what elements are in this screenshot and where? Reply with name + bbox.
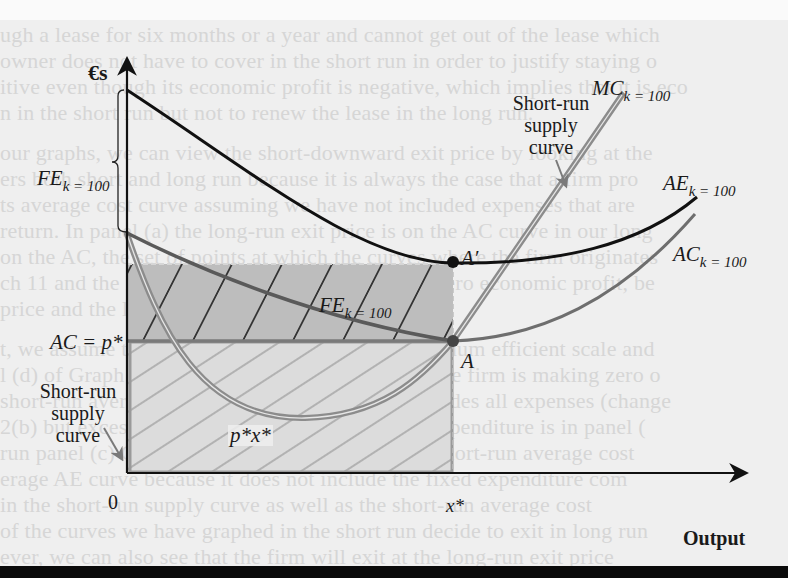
price-label: AC = p* — [50, 332, 123, 353]
ac-curve — [453, 214, 695, 341]
point-a-prime — [447, 256, 459, 268]
x-axis-label: Output — [683, 528, 745, 548]
supply-right-line2: supply — [506, 114, 596, 136]
ae-name: AE — [663, 171, 689, 195]
mc-label: MCk = 100 — [592, 78, 670, 104]
mc-subscript: k = 100 — [624, 88, 671, 104]
supply-right-line3: curve — [506, 136, 596, 158]
ac-subscript: k = 100 — [700, 254, 747, 270]
page-bottom-edge — [0, 566, 788, 578]
fe-brace-sub-text: k = 100 — [63, 178, 110, 194]
point-a-label: A — [461, 351, 474, 372]
ae-label: AEk = 100 — [663, 173, 735, 199]
point-a — [447, 335, 459, 347]
supply-right-line1: Short-run — [506, 92, 596, 114]
supply-left-line3: curve — [33, 424, 123, 446]
revenue-area-label: p*x* — [228, 425, 273, 446]
fe-brace-subscript: k = 100 — [63, 178, 110, 194]
ac-name: AC — [673, 242, 700, 266]
fe-label: FEk = 100 — [319, 295, 391, 321]
ac-label: ACk = 100 — [673, 244, 747, 270]
ae-subscript: k = 100 — [689, 183, 736, 199]
point-a-prime-label: A′ — [461, 248, 478, 269]
fe-brace-label: FEk = 100 — [37, 168, 109, 194]
supply-left-line1: Short-run — [33, 380, 123, 402]
x-star-label: x* — [446, 496, 464, 515]
origin-label: 0 — [108, 492, 118, 512]
supply-annotation-left: Short-run supply curve — [33, 380, 123, 446]
fe-subscript: k = 100 — [345, 305, 392, 321]
revenue-area — [127, 341, 453, 473]
mc-name: MC — [592, 76, 624, 100]
fe-name: FE — [319, 293, 345, 317]
ae-curve — [127, 90, 697, 263]
fe-brace-name: FE — [37, 166, 63, 190]
fe-brace — [112, 90, 127, 232]
supply-annotation-right: Short-run supply curve — [506, 92, 596, 158]
supply-left-line2: supply — [33, 402, 123, 424]
y-axis-label: €s — [88, 62, 108, 84]
